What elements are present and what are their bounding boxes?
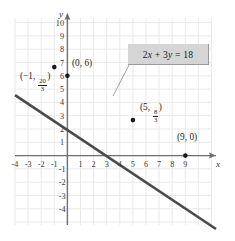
y-tick--2: -2 [59, 178, 66, 187]
paren-close: ) [47, 71, 50, 81]
x-tick-8: 8 [170, 160, 174, 169]
x-tick-7: 7 [157, 160, 161, 169]
y-tick-labels-negative: -1 -2 -3 -4 [59, 165, 66, 214]
y-tick-8: 8 [60, 45, 64, 54]
y-tick-2: 2 [60, 125, 64, 134]
y-axis-label: y [58, 9, 63, 19]
y-tick-3: 3 [60, 112, 64, 121]
x-tick-6: 6 [144, 160, 148, 169]
equation-label-box: 2x + 3y = 18 [128, 44, 209, 65]
x-tick-2: 2 [92, 160, 96, 169]
equation-leader-line [113, 65, 129, 96]
x-tick--4: -4 [12, 160, 19, 169]
x-value: −1, [23, 71, 35, 81]
y-tick-6: 6 [60, 72, 64, 81]
y-tick-1: 1 [60, 138, 64, 147]
y-tick-labels-positive: 1 2 3 4 5 6 7 8 9 10 [56, 19, 64, 148]
y-axis-arrow [64, 13, 70, 20]
equation-constant: 18 [183, 49, 193, 60]
x-tick-3: 3 [105, 160, 109, 169]
point-marker-x-intercept [183, 153, 188, 158]
x-axis-arrow [209, 153, 216, 159]
x-tick-labels: -4 -3 -2 -1 1 2 3 4 5 6 7 8 9 [12, 160, 188, 169]
point-marker-five [131, 118, 136, 123]
equation-var-x: x [148, 49, 152, 60]
y-tick--4: -4 [59, 205, 66, 214]
equation-text: 2x + 3y = 18 [143, 49, 194, 60]
y-tick-5: 5 [60, 85, 64, 94]
y-tick-4: 4 [60, 98, 64, 107]
x-tick-9: 9 [183, 160, 187, 169]
x-axis-label: x [215, 159, 220, 169]
x-tick-4: 4 [118, 160, 122, 169]
y-tick--1: -1 [59, 165, 66, 174]
equation-var-y: y [168, 49, 172, 60]
equation-equals: = [175, 49, 181, 60]
x-value: 5, [143, 102, 150, 112]
point-label-five: (5, 8 3 ) [140, 103, 162, 123]
point-label-neg1: (−1, 20 3 ) [20, 72, 50, 92]
y-tick-9: 9 [60, 32, 64, 41]
fraction-20-3: 20 3 [38, 78, 47, 93]
graph-figure: -4 -3 -2 -1 1 2 3 4 5 6 7 8 9 1 2 3 4 5 … [0, 0, 235, 241]
point-marker-y-intercept [65, 74, 70, 79]
equation-plus: + [155, 49, 161, 60]
y-tick-7: 7 [60, 59, 64, 68]
fraction-numerator: 8 [153, 109, 158, 116]
x-tick-5: 5 [131, 160, 135, 169]
paren-close: ) [159, 102, 162, 112]
x-tick-1: 1 [78, 160, 82, 169]
fraction-8-3: 8 3 [153, 109, 158, 124]
y-tick--3: -3 [59, 192, 66, 201]
fraction-denominator: 3 [153, 117, 158, 124]
point-label-y-intercept: (0, 6) [72, 59, 92, 68]
x-tick--3: -3 [25, 160, 32, 169]
x-tick--2: -2 [38, 160, 45, 169]
point-marker-neg1 [52, 65, 57, 70]
y-tick-10: 10 [56, 19, 64, 28]
fraction-numerator: 20 [38, 78, 47, 85]
x-tick--1: -1 [51, 160, 58, 169]
fraction-denominator: 3 [40, 86, 45, 93]
point-label-x-intercept: (9, 0) [177, 133, 197, 142]
coordinate-plane: -4 -3 -2 -1 1 2 3 4 5 6 7 8 9 1 2 3 4 5 … [0, 0, 235, 241]
